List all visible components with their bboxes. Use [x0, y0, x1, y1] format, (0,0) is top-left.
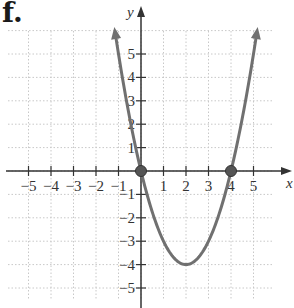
y-tick-label: 5 — [128, 46, 136, 62]
x-axis-label: x — [285, 175, 293, 191]
x-tick-label: −3 — [66, 178, 82, 194]
parabola-chart: xy −5−4−3−2−11234554321−1−2−3−4−5 — [0, 0, 294, 308]
x-tick-label: 2 — [182, 178, 190, 194]
y-tick-label: 4 — [128, 69, 136, 85]
x-tick-label: −5 — [21, 178, 37, 194]
intercept-point — [136, 166, 147, 177]
y-axis-arrow-icon — [137, 6, 145, 17]
y-axis-label: y — [125, 4, 134, 20]
x-axis-arrow-icon — [281, 167, 292, 175]
axes: xy — [6, 4, 293, 308]
y-tick-label: −2 — [119, 210, 135, 226]
y-tick-label: −1 — [119, 186, 135, 202]
x-tick-label: 5 — [250, 178, 258, 194]
y-tick-label: −3 — [119, 233, 135, 249]
x-tick-label: −2 — [88, 178, 104, 194]
y-tick-label: −5 — [119, 280, 135, 296]
x-tick-label: 1 — [160, 178, 168, 194]
x-tick-label: 3 — [205, 178, 213, 194]
curve-arrow-icon — [251, 27, 261, 40]
y-tick-label: −4 — [119, 257, 135, 273]
intercept-point — [226, 166, 237, 177]
curve-arrow-icon — [111, 27, 121, 40]
x-tick-label: −4 — [43, 178, 59, 194]
